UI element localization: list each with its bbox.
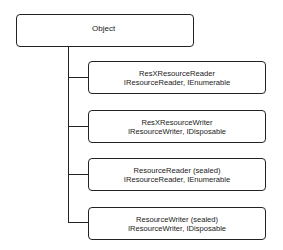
- class-box-resx-resource-writer: ResXResourceWriter IResourceWriter, IDis…: [88, 110, 266, 143]
- root-class-label: Object: [92, 24, 115, 33]
- class-box-resx-resource-reader: ResXResourceReader IResourceReader, IEnu…: [88, 61, 266, 94]
- class-interfaces: IResourceWriter, IDisposable: [128, 224, 226, 233]
- connector-line-4: [68, 222, 88, 223]
- class-box-resource-writer: ResourceWriter (sealed) IResourceWriter,…: [88, 207, 266, 240]
- hierarchy-trunk-line: [68, 47, 69, 223]
- connector-line-3: [68, 174, 88, 175]
- class-name: ResourceReader (sealed): [134, 166, 221, 175]
- class-interfaces: IResourceWriter, IDisposable: [128, 127, 226, 136]
- class-name: ResXResourceWriter: [141, 118, 212, 127]
- class-interfaces: IResourceReader, IEnumerable: [124, 175, 230, 184]
- connector-line-2: [68, 126, 88, 127]
- class-interfaces: IResourceReader, IEnumerable: [124, 78, 230, 87]
- connector-line-1: [68, 77, 88, 78]
- root-class-box-object: Object: [16, 14, 194, 47]
- class-box-resource-reader: ResourceReader (sealed) IResourceReader,…: [88, 158, 266, 191]
- class-name: ResourceWriter (sealed): [136, 215, 218, 224]
- class-name: ResXResourceReader: [139, 69, 215, 78]
